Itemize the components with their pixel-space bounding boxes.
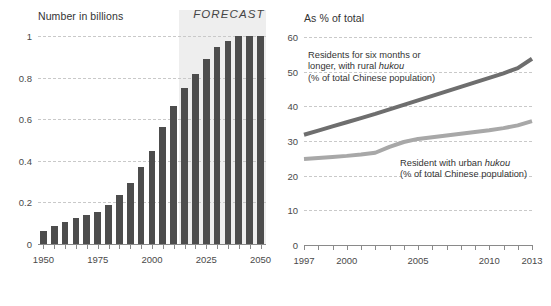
x-tick-mark bbox=[206, 244, 207, 249]
x-tick-label: 2013 bbox=[521, 255, 542, 266]
x-tick-mark bbox=[65, 244, 66, 249]
annotation-urban-line-1: Resident with urban hukou bbox=[400, 158, 527, 169]
x-tick-mark bbox=[318, 245, 319, 250]
annotation-urban-hukou: Resident with urban hukou (% of total Ch… bbox=[400, 158, 527, 181]
y-tick-label: 60 bbox=[278, 31, 298, 42]
x-tick-mark bbox=[261, 244, 262, 249]
y-tick-label: 0 bbox=[278, 240, 298, 251]
bar bbox=[138, 167, 145, 244]
bar bbox=[159, 127, 166, 244]
right-chart-title: As % of total bbox=[304, 12, 364, 24]
annotation-urban-hukou-italic: hukou bbox=[485, 158, 510, 168]
chart-figure: Number in billions FORECAST 00.20.40.60.… bbox=[0, 0, 551, 306]
annotation-rural-hukou-italic: hukou bbox=[379, 61, 404, 71]
annotation-rural-line-1: Residents for six months or bbox=[308, 50, 435, 61]
x-tick-mark bbox=[347, 245, 348, 250]
x-tick-mark bbox=[109, 244, 110, 249]
x-tick-mark bbox=[195, 244, 196, 249]
x-tick-mark bbox=[185, 244, 186, 249]
bar bbox=[246, 36, 253, 244]
line-series-path bbox=[304, 121, 532, 159]
bar bbox=[116, 195, 123, 244]
x-tick-mark bbox=[250, 244, 251, 249]
x-tick-label: 2000 bbox=[141, 254, 162, 265]
x-tick-mark bbox=[174, 244, 175, 249]
bar bbox=[181, 88, 188, 244]
y-tick-label: 20 bbox=[278, 170, 298, 181]
bar bbox=[149, 151, 156, 244]
x-tick-mark bbox=[404, 245, 405, 250]
y-tick-label: 0.4 bbox=[2, 155, 32, 166]
bar bbox=[170, 106, 177, 244]
x-tick-mark bbox=[518, 245, 519, 250]
left-chart-title: Number in billions bbox=[38, 10, 123, 22]
x-tick-mark bbox=[239, 244, 240, 249]
x-tick-mark bbox=[447, 245, 448, 250]
x-tick-label: 2000 bbox=[336, 255, 357, 266]
x-tick-mark bbox=[532, 245, 533, 250]
y-tick-label: 1 bbox=[2, 31, 32, 42]
y-tick-label: 0.8 bbox=[2, 72, 32, 83]
x-tick-mark bbox=[475, 245, 476, 250]
x-tick-mark bbox=[489, 245, 490, 250]
x-tick-mark bbox=[152, 244, 153, 249]
left-chart-panel: Number in billions FORECAST 00.20.40.60.… bbox=[0, 0, 278, 306]
bar bbox=[94, 212, 101, 244]
x-tick-mark bbox=[163, 244, 164, 249]
gridline bbox=[38, 78, 266, 79]
bar bbox=[192, 74, 199, 244]
x-tick-mark bbox=[304, 245, 305, 250]
bar bbox=[214, 47, 221, 244]
left-plot-area bbox=[38, 26, 266, 244]
x-tick-mark bbox=[333, 245, 334, 250]
gridline bbox=[38, 36, 266, 37]
bar bbox=[257, 36, 264, 244]
x-tick-mark bbox=[130, 244, 131, 249]
annotation-urban-line-2: (% of total Chinese population) bbox=[400, 169, 527, 180]
bar bbox=[203, 59, 210, 244]
y-tick-label: 30 bbox=[278, 135, 298, 146]
x-tick-label: 2005 bbox=[407, 255, 428, 266]
bar bbox=[235, 36, 242, 244]
bar bbox=[73, 218, 80, 244]
x-tick-mark bbox=[461, 245, 462, 250]
x-tick-mark bbox=[418, 245, 419, 250]
y-tick-label: 0 bbox=[2, 239, 32, 250]
x-tick-mark bbox=[217, 244, 218, 249]
x-tick-mark bbox=[228, 244, 229, 249]
x-tick-label: 1975 bbox=[87, 254, 108, 265]
annotation-rural-hukou: Residents for six months or longer, with… bbox=[308, 50, 435, 84]
bar bbox=[105, 205, 112, 244]
bar bbox=[62, 222, 69, 244]
x-tick-mark bbox=[87, 244, 88, 249]
y-tick-label: 50 bbox=[278, 66, 298, 77]
y-tick-label: 0.2 bbox=[2, 197, 32, 208]
x-tick-mark bbox=[375, 245, 376, 250]
x-tick-mark bbox=[119, 244, 120, 249]
y-tick-label: 40 bbox=[278, 101, 298, 112]
gridline bbox=[38, 119, 266, 120]
x-tick-mark bbox=[504, 245, 505, 250]
bar bbox=[83, 215, 90, 244]
bar bbox=[225, 41, 232, 244]
x-tick-mark bbox=[43, 244, 44, 249]
bar bbox=[51, 226, 58, 244]
annotation-rural-line-2: longer, with rural hukou bbox=[308, 61, 435, 72]
x-tick-label: 2010 bbox=[479, 255, 500, 266]
y-tick-label: 10 bbox=[278, 205, 298, 216]
annotation-rural-line-2-text: longer, with rural bbox=[308, 61, 379, 71]
forecast-label: FORECAST bbox=[193, 8, 264, 20]
x-tick-label: 1950 bbox=[33, 254, 54, 265]
x-tick-label: 1997 bbox=[293, 255, 314, 266]
x-tick-mark bbox=[141, 244, 142, 249]
y-tick-label: 0.6 bbox=[2, 114, 32, 125]
x-tick-mark bbox=[361, 245, 362, 250]
bar bbox=[127, 183, 134, 244]
x-tick-mark bbox=[76, 244, 77, 249]
x-tick-label: 2025 bbox=[196, 254, 217, 265]
right-chart-panel: As % of total 0102030405060 199720002005… bbox=[278, 0, 551, 306]
bar bbox=[40, 231, 47, 244]
x-tick-mark bbox=[54, 244, 55, 249]
annotation-rural-line-3: (% of total Chinese population) bbox=[308, 73, 435, 84]
annotation-urban-line-1-text: Resident with urban bbox=[400, 158, 485, 168]
